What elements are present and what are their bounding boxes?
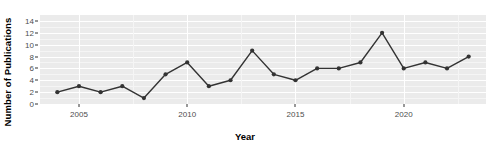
y-tick-label: 6 bbox=[30, 64, 34, 73]
series-polyline bbox=[57, 33, 468, 98]
y-tick-mark bbox=[35, 20, 38, 21]
data-point bbox=[467, 54, 471, 58]
y-axis-title: Number of Publications bbox=[0, 0, 14, 144]
x-tick-label: 2020 bbox=[395, 110, 413, 119]
x-tick-mark bbox=[187, 104, 188, 107]
data-point bbox=[423, 60, 427, 64]
x-tick-mark bbox=[403, 104, 404, 107]
data-point bbox=[293, 78, 297, 82]
x-tick-mark bbox=[78, 104, 79, 107]
data-point bbox=[445, 66, 449, 70]
x-tick-mark bbox=[295, 104, 296, 107]
x-tick-label: 2015 bbox=[287, 110, 305, 119]
data-point bbox=[272, 72, 276, 76]
y-axis-tick-labels: 02468101214 bbox=[22, 15, 38, 105]
data-point bbox=[55, 90, 59, 94]
data-point bbox=[185, 60, 189, 64]
data-point bbox=[142, 96, 146, 100]
y-tick-label: 10 bbox=[25, 40, 34, 49]
data-point bbox=[315, 66, 319, 70]
y-tick-label: 0 bbox=[30, 100, 34, 109]
data-point bbox=[380, 31, 384, 35]
data-point bbox=[337, 66, 341, 70]
y-tick-label: 4 bbox=[30, 76, 34, 85]
data-point bbox=[228, 78, 232, 82]
y-tick-mark bbox=[35, 44, 38, 45]
data-point bbox=[250, 49, 254, 53]
data-point bbox=[207, 84, 211, 88]
x-axis-tick-labels: 2005201020152020 bbox=[40, 104, 486, 122]
y-tick-label: 14 bbox=[25, 16, 34, 25]
publications-per-year-line-chart: Number of Publications 02468101214 20052… bbox=[0, 0, 490, 144]
y-tick-mark bbox=[35, 56, 38, 57]
data-point bbox=[358, 60, 362, 64]
data-point bbox=[77, 84, 81, 88]
data-series-line bbox=[40, 15, 486, 104]
data-point bbox=[120, 84, 124, 88]
data-point bbox=[402, 66, 406, 70]
x-tick-label: 2005 bbox=[70, 110, 88, 119]
y-tick-label: 8 bbox=[30, 52, 34, 61]
y-tick-mark bbox=[35, 32, 38, 33]
plot-panel bbox=[40, 15, 486, 104]
y-tick-label: 12 bbox=[25, 28, 34, 37]
x-axis-title: Year bbox=[0, 130, 490, 143]
x-tick-label: 2010 bbox=[178, 110, 196, 119]
y-tick-mark bbox=[35, 80, 38, 81]
y-tick-mark bbox=[35, 68, 38, 69]
y-tick-mark bbox=[35, 92, 38, 93]
y-tick-mark bbox=[35, 104, 38, 105]
data-point bbox=[99, 90, 103, 94]
data-point bbox=[163, 72, 167, 76]
series-markers bbox=[55, 31, 471, 100]
y-tick-label: 2 bbox=[30, 88, 34, 97]
